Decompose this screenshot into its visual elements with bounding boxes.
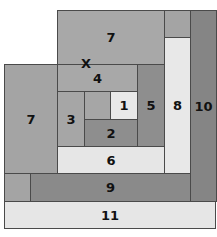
rect-7: 7 [57, 10, 165, 65]
rect-7: 7 [4, 64, 58, 174]
rect-10: 10 [190, 10, 217, 202]
x-marker: X [81, 56, 91, 71]
rect-6: 6 [57, 146, 165, 174]
rect-unlabeled [84, 91, 111, 120]
rect-8: 8 [164, 37, 191, 174]
rect-unlabeled [4, 173, 31, 202]
rect-9: 9 [30, 173, 191, 202]
rect-3: 3 [57, 91, 85, 147]
rect-11: 11 [4, 201, 216, 229]
rect-1: 1 [110, 91, 138, 120]
rect-2: 2 [84, 119, 138, 147]
rect-unlabeled [164, 10, 191, 38]
rect-4: 4 [57, 64, 138, 92]
rect-5: 5 [137, 64, 165, 147]
